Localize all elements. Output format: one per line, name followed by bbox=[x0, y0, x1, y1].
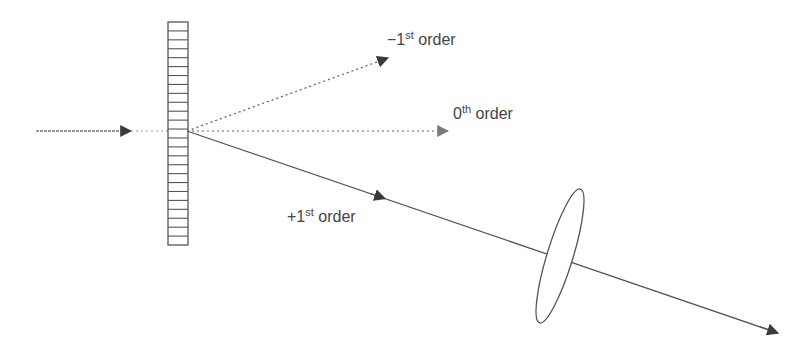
minus-first-order-ray bbox=[187, 58, 388, 131]
label-prefix: 0 bbox=[453, 105, 462, 122]
minus-first-order-label: −1st order bbox=[387, 32, 456, 48]
label-superscript: st bbox=[405, 29, 414, 41]
label-suffix: order bbox=[414, 31, 456, 48]
diffraction-grating bbox=[168, 22, 188, 245]
zeroth-order-label: 0th order bbox=[453, 106, 513, 122]
plus-first-order-ray bbox=[187, 131, 778, 333]
label-suffix: order bbox=[471, 105, 513, 122]
label-suffix: order bbox=[314, 208, 356, 225]
plus-first-order-direction-arrow bbox=[370, 194, 385, 199]
label-superscript: st bbox=[305, 206, 314, 218]
lens bbox=[527, 185, 593, 326]
diffraction-diagram: −1st order 0th order +1st order bbox=[0, 0, 812, 352]
label-prefix: −1 bbox=[387, 31, 405, 48]
label-prefix: +1 bbox=[287, 208, 305, 225]
plus-first-order-label: +1st order bbox=[287, 209, 356, 225]
output-arrow bbox=[760, 327, 778, 333]
label-superscript: th bbox=[462, 103, 471, 115]
diagram-canvas bbox=[0, 0, 812, 352]
